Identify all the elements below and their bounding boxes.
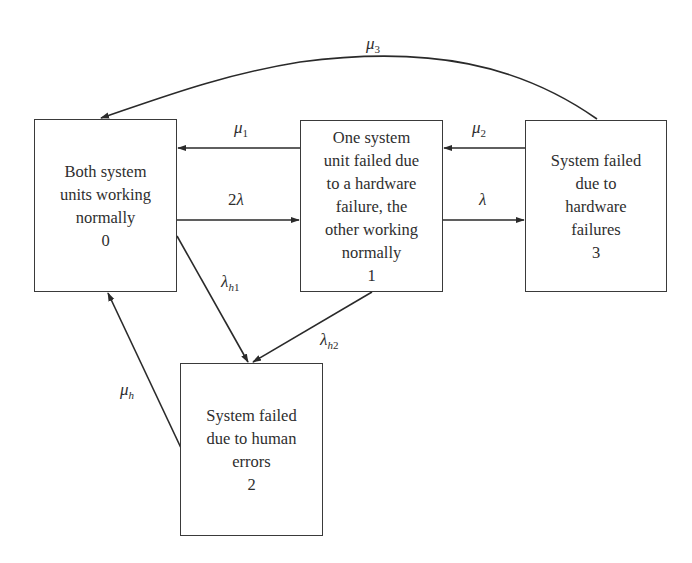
state-1: One system unit failed due to a hardware… (300, 120, 443, 292)
label-mu3: μ3 (366, 34, 380, 55)
state-2-text: System failed due to human errors 2 (206, 404, 296, 496)
label-mu-h: μh (120, 380, 134, 401)
label-2lambda: 2λ (228, 190, 244, 210)
label-lambda-h1: λh1 (221, 272, 239, 293)
label-mu2: μ2 (472, 118, 486, 139)
state-0: Both system units working normally 0 (34, 119, 177, 292)
edge-3-to-0 (101, 56, 597, 119)
state-3-text: System failed due to hardware failures 3 (551, 149, 641, 264)
label-lambda: λ (479, 190, 486, 210)
state-1-text: One system unit failed due to a hardware… (324, 126, 419, 287)
edge-0-to-2 (177, 236, 248, 362)
edge-1-to-2 (253, 292, 372, 362)
edge-2-to-0 (108, 293, 181, 448)
state-2: System failed due to human errors 2 (180, 363, 323, 536)
state-3: System failed due to hardware failures 3 (525, 120, 667, 292)
state-0-text: Both system units working normally 0 (60, 160, 151, 252)
label-mu1: μ1 (234, 118, 248, 139)
label-lambda-h2: λh2 (320, 330, 338, 351)
